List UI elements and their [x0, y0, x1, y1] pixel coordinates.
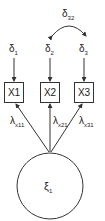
loading-label-3: λx31 — [79, 115, 94, 128]
indicator-x3: X3 — [74, 82, 94, 103]
diagram-lines — [0, 0, 105, 221]
error-label-3: δ3 — [79, 43, 88, 56]
covariance-arrow — [52, 26, 86, 36]
indicator-x1: X1 — [4, 82, 24, 103]
loading-arrow-3 — [51, 104, 82, 152]
indicator-x2: X2 — [40, 82, 60, 103]
loading-label-2: λx21 — [53, 115, 68, 128]
loading-label-1: λx11 — [10, 115, 24, 128]
error-label-2: δ2 — [45, 43, 54, 56]
loading-arrow-1 — [16, 104, 49, 152]
error-label-1: δ1 — [9, 43, 18, 56]
covariance-label: δ32 — [62, 8, 74, 21]
latent-label: ξ1 — [44, 180, 52, 194]
